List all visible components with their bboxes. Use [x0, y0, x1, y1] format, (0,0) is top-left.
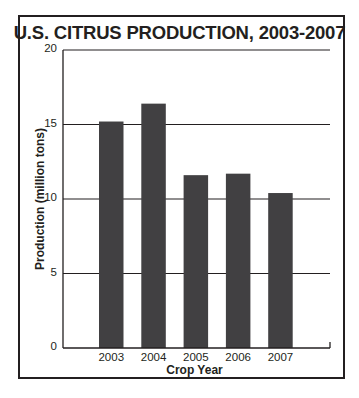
bar-2007 [268, 193, 293, 348]
bar-2004 [141, 104, 166, 348]
x-tick-label: 2003 [91, 351, 131, 363]
x-tick-label: 2005 [176, 351, 216, 363]
x-tick-label: 2007 [260, 351, 300, 363]
y-tick-label: 15 [37, 117, 57, 129]
y-tick-label: 0 [37, 340, 57, 352]
y-tick-label: 10 [37, 191, 57, 203]
x-tick-label: 2004 [134, 351, 174, 363]
bar-2006 [226, 174, 251, 348]
bar-2003 [99, 122, 124, 348]
y-tick-label: 5 [37, 266, 57, 278]
x-tick-label: 2006 [218, 351, 258, 363]
y-tick-label: 20 [37, 42, 57, 54]
bar-2005 [184, 175, 209, 348]
